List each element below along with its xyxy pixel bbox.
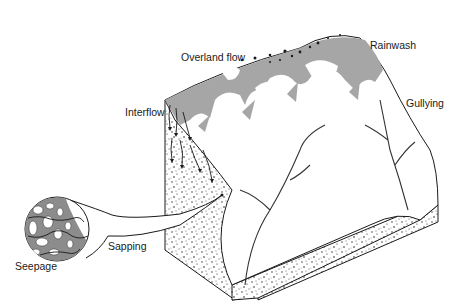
label-interflow: Interflow <box>125 106 165 118</box>
label-seepage: Seepage <box>15 260 57 272</box>
sapping-point-marker <box>221 194 224 197</box>
label-gullying: Gullying <box>406 97 444 109</box>
label-sapping: Sapping <box>108 240 147 252</box>
label-overland-flow: Overland flow <box>181 51 245 63</box>
label-rainwash: Rainwash <box>370 39 416 51</box>
hillslope-block-diagram: Overland flow Rainwash Interflow Gullyin… <box>0 0 457 306</box>
